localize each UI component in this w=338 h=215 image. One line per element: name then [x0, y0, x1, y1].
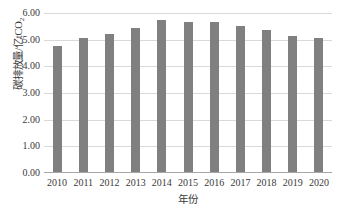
bar: [262, 30, 271, 173]
bar-slot: [280, 13, 306, 173]
bar-slot: [201, 13, 227, 173]
bar-slot: [149, 13, 175, 173]
x-axis-tick-label: 2018: [254, 176, 280, 189]
bar-chart: 碳排放量/亿tCO2 6.005.004.003.002.001.000.00 …: [0, 0, 338, 215]
y-axis-tick-label: 3.00: [23, 87, 41, 99]
x-axis-tick-label: 2016: [201, 176, 227, 189]
x-axis-tick-label: 2013: [123, 176, 149, 189]
y-axis-tick-label: 4.00: [23, 60, 41, 72]
bar: [105, 34, 114, 173]
bar-slot: [96, 13, 122, 173]
y-axis-tick-label: 5.00: [23, 34, 41, 46]
bar-slot: [306, 13, 332, 173]
bar: [288, 36, 297, 173]
x-axis-tick-labels: 2010201120122013201420152016201720182019…: [44, 176, 332, 189]
y-axis-tick-label: 0.00: [23, 167, 41, 179]
bar: [236, 26, 245, 173]
x-axis-tick-label: 2011: [70, 176, 96, 189]
y-axis-tick-label: 6.00: [23, 7, 41, 19]
bar-slot: [123, 13, 149, 173]
plot-area: [44, 13, 332, 173]
bar-series: [44, 13, 332, 173]
bar: [53, 46, 62, 173]
bar: [79, 38, 88, 173]
y-axis-tick-label: 2.00: [23, 114, 41, 126]
x-axis-tick-label: 2015: [175, 176, 201, 189]
bar: [157, 20, 166, 173]
bar: [210, 22, 219, 173]
bar-slot: [227, 13, 253, 173]
x-axis-tick-label: 2010: [44, 176, 70, 189]
x-axis-tick-label: 2017: [227, 176, 253, 189]
bar-slot: [44, 13, 70, 173]
y-axis-tick-labels: 6.005.004.003.002.001.000.00: [14, 13, 42, 173]
y-axis-tick-label: 1.00: [23, 140, 41, 152]
bar: [314, 38, 323, 173]
x-axis-line: [44, 172, 332, 173]
x-axis-tick-label: 2012: [96, 176, 122, 189]
bar: [131, 28, 140, 173]
x-axis-tick-label: 2020: [306, 176, 332, 189]
x-axis-tick-label: 2019: [280, 176, 306, 189]
bar-slot: [175, 13, 201, 173]
bar: [184, 22, 193, 173]
bar-slot: [70, 13, 96, 173]
bar-slot: [254, 13, 280, 173]
x-axis-title: 年份: [44, 193, 332, 207]
x-axis-tick-label: 2014: [149, 176, 175, 189]
